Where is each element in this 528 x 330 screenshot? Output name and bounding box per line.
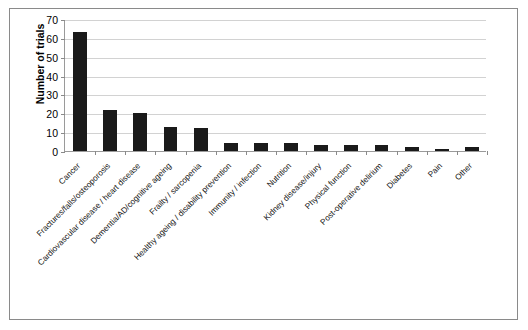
bar (405, 147, 419, 151)
bar (133, 113, 147, 151)
x-tick-mark (336, 151, 337, 155)
x-tick-mark (457, 151, 458, 155)
bar-series (65, 20, 486, 151)
y-tick-label: 10 (46, 127, 58, 139)
plot-area: 706050403020100 (64, 20, 486, 152)
y-tick-label: 0 (52, 146, 58, 158)
chart-figure: Number of trials 706050403020100 CancerF… (0, 0, 528, 330)
y-axis-title: Number of trials (34, 0, 46, 130)
x-tick-mark (366, 151, 367, 155)
bar (344, 145, 358, 151)
bar (194, 128, 208, 151)
x-tick-mark (216, 151, 217, 155)
x-tick-mark (125, 151, 126, 155)
bar (284, 143, 298, 151)
x-tick-mark (397, 151, 398, 155)
x-tick-mark (306, 151, 307, 155)
bar (375, 145, 389, 151)
x-tick-mark (487, 151, 488, 155)
bar (314, 145, 328, 151)
y-tick-label: 40 (46, 71, 58, 83)
x-tick-mark (95, 151, 96, 155)
x-tick-mark (427, 151, 428, 155)
x-tick-mark (276, 151, 277, 155)
x-tick-mark (186, 151, 187, 155)
y-tick-mark (61, 152, 65, 153)
bar (164, 127, 178, 152)
bar (465, 147, 479, 151)
x-tick-mark (246, 151, 247, 155)
bar (103, 110, 117, 151)
bar (73, 32, 87, 151)
y-tick-label: 50 (46, 52, 58, 64)
y-tick-label: 70 (46, 14, 58, 26)
bar (254, 143, 268, 151)
x-axis-label: Cancer (0, 161, 82, 330)
y-tick-label: 20 (46, 108, 58, 120)
bar (435, 149, 449, 151)
x-tick-mark (155, 151, 156, 155)
plot-wrapper: 706050403020100 (64, 20, 486, 152)
y-tick-label: 60 (46, 33, 58, 45)
y-tick-label: 30 (46, 89, 58, 101)
bar (224, 143, 238, 151)
